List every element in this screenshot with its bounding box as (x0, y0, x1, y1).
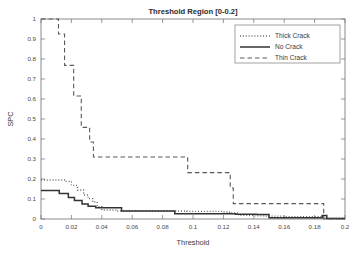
x-tick-label: 0.16 (278, 223, 291, 230)
chart-legend: Thick CrackNo CrackThin Crack (235, 25, 340, 63)
x-axis-tick-labels: 00.020.040.060.080.10.120.140.160.180.2 (39, 223, 350, 230)
x-tick-label: 0.1 (189, 223, 198, 230)
chart-title: Threshold Region [0-0.2] (148, 7, 237, 16)
figure-container: 00.020.040.060.080.10.120.140.160.180.2 … (0, 0, 364, 256)
x-tick-label: 0.04 (96, 223, 109, 230)
y-tick-label: 0.6 (27, 95, 36, 102)
x-tick-label: 0.14 (248, 223, 261, 230)
y-tick-label: 0.2 (27, 175, 36, 182)
y-tick-label: 0.9 (27, 35, 36, 42)
legend-label: No Crack (275, 43, 303, 50)
y-tick-label: 0.7 (27, 75, 36, 82)
y-tick-label: 1 (33, 15, 37, 22)
x-tick-label: 0.02 (65, 223, 78, 230)
y-tick-label: 0.5 (27, 115, 36, 122)
x-tick-label: 0.18 (309, 223, 322, 230)
x-tick-label: 0.2 (341, 223, 350, 230)
chart-canvas: 00.020.040.060.080.10.120.140.160.180.2 … (0, 0, 364, 256)
legend-label: Thick Crack (275, 32, 311, 39)
legend-label: Thin Crack (275, 54, 308, 61)
y-tick-label: 0.4 (27, 135, 36, 142)
y-axis-tick-labels: 00.10.20.30.40.50.60.70.80.91 (27, 15, 36, 222)
y-tick-label: 0.1 (27, 195, 36, 202)
x-axis-label: Threshold (177, 238, 210, 247)
y-tick-label: 0 (33, 215, 37, 222)
x-tick-label: 0 (39, 223, 43, 230)
x-tick-label: 0.12 (217, 223, 230, 230)
y-tick-label: 0.3 (27, 155, 36, 162)
y-tick-label: 0.8 (27, 55, 36, 62)
x-tick-label: 0.06 (126, 223, 139, 230)
y-axis-label: SPC (6, 111, 15, 127)
x-tick-label: 0.08 (157, 223, 170, 230)
